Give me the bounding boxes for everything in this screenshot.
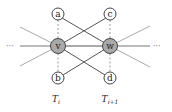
column-label-ti1-sub: i+1 xyxy=(108,98,119,105)
node-d-label: d xyxy=(107,73,113,83)
node-a: a xyxy=(52,8,64,20)
node-c-label: c xyxy=(107,9,112,19)
edge-w-b xyxy=(63,46,110,75)
node-v: v xyxy=(51,39,66,54)
node-v-label: v xyxy=(54,41,61,51)
node-d: d xyxy=(104,72,116,84)
column-label-ti: Ti xyxy=(52,94,60,105)
edge-c-v xyxy=(58,18,106,46)
node-b: b xyxy=(52,72,64,84)
ellipsis-right: ··· xyxy=(153,42,161,51)
node-w: w xyxy=(103,39,118,54)
column-label-ti-sub: i xyxy=(58,98,60,105)
edge-a-w xyxy=(62,18,110,46)
node-a-label: a xyxy=(55,9,61,19)
node-b-label: b xyxy=(55,73,61,83)
edge-v-d xyxy=(58,46,105,75)
node-w-label: w xyxy=(106,41,114,51)
column-label-ti1: Ti+1 xyxy=(102,94,119,105)
ellipsis-left: ··· xyxy=(6,42,14,51)
node-c: c xyxy=(104,8,116,20)
graph-diagram: ··· ··· a c v w b d Ti Ti+1 xyxy=(0,0,172,112)
